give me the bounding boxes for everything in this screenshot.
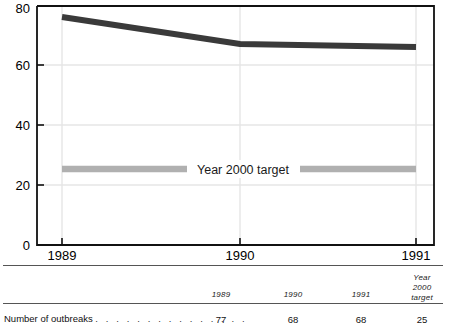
table-rule-top bbox=[3, 265, 443, 266]
line-chart: 0 20 40 60 80 1989 1990 1991 Year 2000 t… bbox=[0, 0, 451, 262]
y-tick-label-80: 80 bbox=[16, 1, 30, 16]
series-line-number-of-outbreaks bbox=[62, 17, 416, 47]
y-tick-label-40: 40 bbox=[16, 118, 30, 133]
chart-figure: 0 20 40 60 80 1989 1990 1991 Year 2000 t… bbox=[0, 0, 451, 262]
target-header-line-1: Year bbox=[400, 273, 444, 283]
table-cell-1989: 77 bbox=[196, 314, 246, 325]
row-label-text: Number of outbreaks bbox=[4, 313, 93, 324]
x-tick-label-1991: 1991 bbox=[402, 248, 431, 262]
x-tick-label-1989: 1989 bbox=[48, 248, 77, 262]
table-cell-1990: 68 bbox=[268, 314, 318, 325]
target-header-line-3: target bbox=[400, 293, 444, 303]
data-table: 1989 1990 1991 Year 2000 target Number o… bbox=[0, 262, 451, 334]
x-tick-label-1990: 1990 bbox=[226, 248, 255, 262]
y-axis-ticks bbox=[37, 65, 44, 185]
table-cell-1991: 68 bbox=[336, 314, 386, 325]
y-tick-label-20: 20 bbox=[16, 178, 30, 193]
table-col-header-1990: 1990 bbox=[268, 290, 318, 300]
x-axis-ticks bbox=[62, 238, 416, 245]
y-tick-label-0: 0 bbox=[23, 238, 30, 253]
table-cell-year-2000-target: 25 bbox=[400, 314, 444, 325]
target-header-line-2: 2000 bbox=[400, 283, 444, 293]
table-col-header-1989: 1989 bbox=[196, 290, 246, 300]
table-col-header-1991: 1991 bbox=[336, 290, 386, 300]
table-col-header-year-2000-target: Year 2000 target bbox=[400, 273, 444, 303]
y-tick-label-60: 60 bbox=[16, 58, 30, 73]
table-rule-middle bbox=[3, 303, 443, 304]
year-2000-target-label: Year 2000 target bbox=[197, 163, 290, 177]
